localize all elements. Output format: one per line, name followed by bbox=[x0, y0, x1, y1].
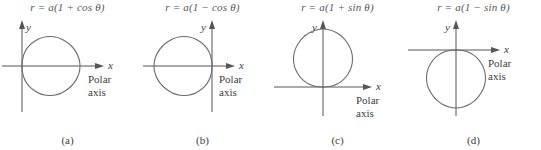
equation-b-text: r = a(1 − cos θ) bbox=[165, 1, 239, 13]
equation-c: r = a(1 + sin θ) bbox=[270, 1, 405, 13]
sublabel-c: (c) bbox=[270, 134, 405, 146]
y-axis-label-a: y bbox=[25, 21, 31, 33]
y-axis-d bbox=[453, 20, 459, 116]
polar-axis-label-c-line1: Polar bbox=[356, 94, 380, 106]
panel-b: r = a(1 − cos θ) y x Polar axis (b) bbox=[135, 0, 270, 150]
panel-c: r = a(1 + sin θ) y x Polar axis (c) bbox=[270, 0, 405, 150]
plot-c: y x Polar axis bbox=[270, 16, 405, 124]
sublabel-b: (b) bbox=[135, 134, 270, 146]
equation-a: r = a(1 + cos θ) bbox=[0, 1, 135, 13]
x-axis-a bbox=[2, 63, 104, 69]
y-axis-label-b: y bbox=[200, 21, 206, 33]
equation-d: r = a(1 − sin θ) bbox=[406, 1, 541, 13]
x-axis-b bbox=[143, 63, 235, 69]
x-axis-label-b: x bbox=[238, 59, 244, 71]
polar-axis-label-b-line1: Polar bbox=[219, 73, 243, 85]
polar-cardioid-figure: r = a(1 + cos θ) y x Polar axis bbox=[0, 0, 541, 150]
polar-axis-label-c-line2: axis bbox=[356, 107, 374, 119]
x-axis-label-c: x bbox=[375, 80, 381, 92]
y-axis-label-d: y bbox=[444, 21, 450, 33]
polar-axis-label-a-line2: axis bbox=[88, 86, 106, 98]
equation-d-text: r = a(1 − sin θ) bbox=[437, 1, 510, 13]
sublabel-d: (d) bbox=[406, 134, 541, 146]
x-axis-label-a: x bbox=[107, 59, 113, 71]
polar-axis-label-d-line1: Polar bbox=[488, 57, 512, 69]
polar-axis-label-d-line2: axis bbox=[488, 70, 506, 82]
sublabel-a: (a) bbox=[0, 134, 135, 146]
plot-a: y x Polar axis bbox=[0, 16, 135, 124]
panel-d: r = a(1 − sin θ) y x Polar axis (d) bbox=[406, 0, 541, 150]
panel-a: r = a(1 + cos θ) y x Polar axis bbox=[0, 0, 135, 150]
equation-b: r = a(1 − cos θ) bbox=[135, 1, 270, 13]
plot-d: y x Polar axis bbox=[406, 16, 541, 124]
polar-axis-label-a-line1: Polar bbox=[88, 73, 112, 85]
y-axis-label-c: y bbox=[311, 21, 317, 33]
plot-b: y x Polar axis bbox=[135, 16, 270, 124]
equation-a-text: r = a(1 + cos θ) bbox=[30, 1, 104, 13]
equation-c-text: r = a(1 + sin θ) bbox=[301, 1, 374, 13]
y-axis-c bbox=[320, 20, 326, 116]
x-axis-label-d: x bbox=[503, 43, 509, 55]
polar-axis-label-b-line2: axis bbox=[219, 86, 237, 98]
